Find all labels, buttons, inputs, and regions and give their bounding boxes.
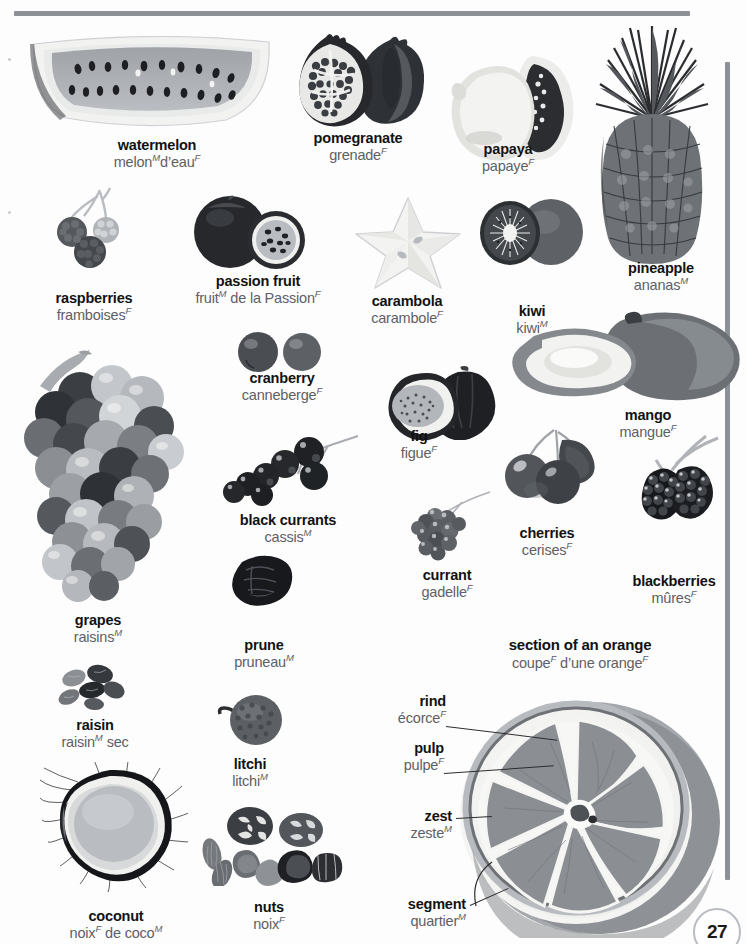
coconut-illustration bbox=[38, 762, 188, 892]
term-en-segment: segment bbox=[318, 896, 466, 912]
carambola-illustration bbox=[352, 196, 464, 290]
label-nuts: nuts noixF bbox=[205, 899, 333, 932]
term-en-rind: rind bbox=[330, 693, 446, 709]
term-fr-carambola: caramboleF bbox=[327, 309, 487, 326]
term-fr-fig: figueF bbox=[372, 444, 466, 461]
term-en-fig: fig bbox=[372, 428, 466, 444]
term-en-grapes: grapes bbox=[28, 612, 168, 628]
term-fr-watermelon: melonMd’eauF bbox=[57, 153, 257, 170]
term-en-coconut: coconut bbox=[36, 908, 196, 924]
top-rule bbox=[14, 11, 690, 16]
term-fr-black-currants: cassisM bbox=[193, 528, 383, 545]
label-blackberries: blackberries mûresF bbox=[600, 573, 747, 606]
term-en-raisin: raisin bbox=[25, 717, 165, 733]
term-fr-raspberries: framboisesF bbox=[2, 306, 186, 323]
label-coconut: coconut noixF de cocoM bbox=[36, 908, 196, 941]
term-fr-cherries: cerisesF bbox=[477, 541, 617, 558]
term-en-blackberries: blackberries bbox=[600, 573, 747, 589]
term-fr-segment: quartierM bbox=[318, 912, 466, 929]
term-fr-mango: mangueF bbox=[578, 423, 718, 440]
label-fig: fig figueF bbox=[372, 428, 466, 461]
label-carambola: carambola caramboleF bbox=[327, 293, 487, 326]
page-speck bbox=[8, 58, 11, 61]
nuts-illustration bbox=[198, 806, 346, 886]
label-raisin: raisin raisinM sec bbox=[25, 717, 165, 750]
term-fr-pulp: pulpeF bbox=[330, 756, 444, 773]
section-title-fr: coupeF d’une orangeF bbox=[450, 654, 710, 671]
pomegranate-illustration bbox=[294, 32, 426, 128]
term-fr-kiwi: kiwiM bbox=[472, 319, 592, 336]
term-en-nuts: nuts bbox=[205, 899, 333, 915]
term-fr-litchi: litchiM bbox=[180, 772, 320, 789]
kiwi-illustration bbox=[478, 196, 586, 268]
term-fr-grapes: raisinsM bbox=[28, 628, 168, 645]
label-segment: segment quartierM bbox=[318, 896, 466, 929]
term-en-currant: currant bbox=[377, 567, 517, 583]
term-en-carambola: carambola bbox=[327, 293, 487, 309]
term-en-mango: mango bbox=[578, 407, 718, 423]
segment-bracket bbox=[472, 858, 528, 914]
term-en-passion-fruit: passion fruit bbox=[158, 273, 358, 289]
label-zest: zest zesteM bbox=[330, 808, 452, 841]
term-en-pulp: pulp bbox=[330, 740, 444, 756]
label-pulp: pulp pulpeF bbox=[330, 740, 444, 773]
term-en-litchi: litchi bbox=[180, 756, 320, 772]
watermelon-illustration bbox=[26, 36, 276, 128]
term-en-black-currants: black currants bbox=[193, 512, 383, 528]
term-fr-cranberry: cannebergeF bbox=[212, 386, 352, 403]
term-en-kiwi: kiwi bbox=[472, 303, 592, 319]
term-fr-raisin: raisinM sec bbox=[25, 733, 165, 750]
label-cherries: cherries cerisesF bbox=[477, 525, 617, 558]
term-fr-nuts: noixF bbox=[205, 915, 333, 932]
term-en-watermelon: watermelon bbox=[57, 137, 257, 153]
label-prune: prune pruneauM bbox=[194, 637, 334, 670]
fruit-dictionary-page: watermelon melonMd’eauF pomegranate gren… bbox=[0, 0, 747, 944]
term-fr-pineapple: ananasM bbox=[581, 276, 741, 293]
raspberries-illustration bbox=[44, 186, 140, 278]
label-cranberry: cranberry cannebergeF bbox=[212, 370, 352, 403]
term-fr-coconut: noixF de cocoM bbox=[36, 924, 196, 941]
pineapple-illustration bbox=[592, 26, 714, 266]
grapes-illustration bbox=[16, 342, 196, 610]
term-fr-prune: pruneauM bbox=[194, 653, 334, 670]
term-fr-papaya: papayeF bbox=[428, 157, 588, 174]
term-en-prune: prune bbox=[194, 637, 334, 653]
litchi-illustration bbox=[214, 690, 286, 748]
label-currant: currant gadelleF bbox=[377, 567, 517, 600]
term-en-cranberry: cranberry bbox=[212, 370, 352, 386]
label-grapes: grapes raisinsM bbox=[28, 612, 168, 645]
term-en-zest: zest bbox=[330, 808, 452, 824]
black-currants-illustration bbox=[208, 432, 360, 506]
label-rind: rind écorceF bbox=[330, 693, 446, 726]
label-pineapple: pineapple ananasM bbox=[581, 260, 741, 293]
raisin-illustration bbox=[56, 664, 134, 712]
cranberry-illustration bbox=[234, 330, 326, 374]
passion-fruit-illustration bbox=[188, 194, 308, 274]
term-fr-zest: zesteM bbox=[330, 824, 452, 841]
blackberries-illustration bbox=[620, 430, 726, 526]
page-speck bbox=[8, 211, 11, 214]
label-papaya: papaya papayeF bbox=[428, 141, 588, 174]
term-fr-rind: écorceF bbox=[330, 709, 446, 726]
label-mango: mango mangueF bbox=[578, 407, 718, 440]
term-en-cherries: cherries bbox=[477, 525, 617, 541]
term-fr-blackberries: mûresF bbox=[600, 589, 747, 606]
term-fr-currant: gadelleF bbox=[377, 583, 517, 600]
prune-illustration bbox=[228, 552, 294, 608]
term-en-papaya: papaya bbox=[428, 141, 588, 157]
section-title-orange: section of an orange coupeF d’une orange… bbox=[450, 637, 710, 671]
label-litchi: litchi litchiM bbox=[180, 756, 320, 789]
label-watermelon: watermelon melonMd’eauF bbox=[57, 137, 257, 170]
section-title-en: section of an orange bbox=[450, 637, 710, 654]
label-black-currants: black currants cassisM bbox=[193, 512, 383, 545]
page-number: 27 bbox=[693, 908, 741, 944]
label-kiwi: kiwi kiwiM bbox=[472, 303, 592, 336]
term-en-pineapple: pineapple bbox=[581, 260, 741, 276]
